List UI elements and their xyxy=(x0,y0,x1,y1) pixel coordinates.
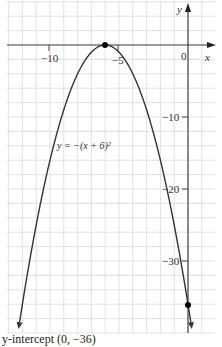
tick-label-y-neg30: −30 xyxy=(162,255,180,267)
y-intercept-caption: y-intercept (0, −36) xyxy=(2,332,96,347)
parabola-chart: −10 −5 0 x y −10 −20 −30 y = −(x + 6)² xyxy=(0,0,222,347)
tick-label-x-neg10: −10 xyxy=(41,52,59,64)
tick-label-y-neg10: −10 xyxy=(162,111,180,123)
curve-right-arrow-icon xyxy=(188,322,194,329)
y-axis-label: y xyxy=(176,3,182,15)
x-axis-arrow-icon xyxy=(207,42,216,48)
vertex-point xyxy=(102,42,108,48)
curve-left-arrow-icon xyxy=(17,322,23,329)
equation-label: y = −(x + 6)² xyxy=(56,140,112,152)
y-intercept-point xyxy=(185,302,191,308)
tick-label-y-neg20: −20 xyxy=(162,183,180,195)
tick-label-x-0: 0 xyxy=(181,50,187,62)
x-axis-label: x xyxy=(204,51,210,63)
y-axis-arrow-icon xyxy=(185,3,191,12)
tick-label-x-neg5: −5 xyxy=(112,54,124,66)
